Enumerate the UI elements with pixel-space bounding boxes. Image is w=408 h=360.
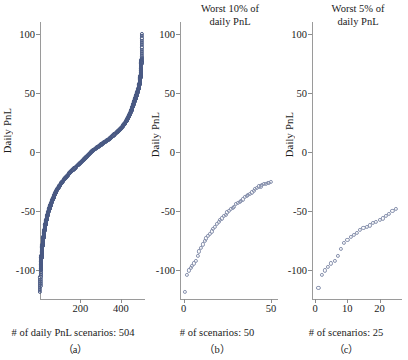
- data-point: [393, 207, 397, 211]
- data-point: [332, 259, 336, 263]
- data-point: [183, 290, 187, 294]
- panel-b-x-tick-label: 50: [266, 303, 277, 314]
- panel-b-y-axis: [180, 22, 181, 300]
- panel-b-x-axis: [180, 299, 278, 300]
- panel-c-y-axis-label: Daily PnL: [284, 112, 295, 157]
- panel-c-y-tick-label: 50: [297, 87, 308, 98]
- panel-b-subcaption: （b）: [150, 341, 284, 356]
- panel-a-y-tick: [36, 34, 40, 35]
- panel-b-y-tick-label: 50: [165, 87, 176, 98]
- panel-b-y-tick-label: -50: [161, 206, 175, 217]
- panel-c-y-axis: [312, 22, 313, 300]
- data-point: [339, 247, 343, 251]
- panel-c-plot-area: 100500-50-10001020: [312, 22, 402, 300]
- panel-a-y-tick-label: 50: [25, 87, 36, 98]
- panel-c-y-tick-label: 0: [302, 147, 307, 158]
- panel-a-x-tick-label: 400: [113, 303, 129, 314]
- data-point: [326, 265, 330, 269]
- panel-c-x-axis: [312, 299, 402, 300]
- data-point: [320, 273, 324, 277]
- data-point: [316, 286, 320, 290]
- panel-c-y-tick: [308, 211, 312, 212]
- panel-b-y-tick-label: 100: [159, 28, 175, 39]
- panel-c-x-tick-label: 0: [313, 303, 318, 314]
- panel-b-y-tick-label: -100: [156, 265, 175, 276]
- data-point: [342, 241, 346, 245]
- panel-b-x-caption: # of scenarios: 50: [150, 327, 284, 338]
- panel-c-y-tick-label: -100: [288, 265, 307, 276]
- data-point: [185, 273, 189, 277]
- panel-a-y-tick: [36, 152, 40, 153]
- panel-a-x-caption: # of daily PnL scenarios: 504: [0, 327, 150, 338]
- panel-c-y-tick-label: -50: [293, 206, 307, 217]
- panel-c-x-caption: # of scenarios: 25: [284, 327, 408, 338]
- panel-a-y-tick-label: 100: [19, 28, 35, 39]
- panel-a-subcaption: （a）: [0, 341, 150, 356]
- panel-c-y-tick-label: 100: [291, 28, 307, 39]
- panel-a-plot-area: 100500-50-100200400: [40, 22, 145, 300]
- panel-a-y-tick-label: -50: [21, 206, 35, 217]
- panel-c-x-tick-label: 20: [374, 303, 385, 314]
- panel-b-y-tick: [176, 93, 180, 94]
- panel-c: Worst 5% of daily PnL Daily PnL 100500-5…: [284, 0, 408, 360]
- panel-c-y-tick: [308, 93, 312, 94]
- data-point: [336, 254, 340, 258]
- data-point: [195, 254, 199, 258]
- panel-b-plot-area: 100500-50-100050: [180, 22, 278, 300]
- panel-c-y-tick: [308, 152, 312, 153]
- data-point: [269, 180, 273, 184]
- panel-b-y-tick: [176, 152, 180, 153]
- panel-b-x-tick-label: 0: [181, 303, 186, 314]
- panel-c-subcaption: （c）: [284, 341, 408, 356]
- panel-a-y-tick: [36, 93, 40, 94]
- data-point: [194, 259, 198, 263]
- panel-c-y-tick: [308, 34, 312, 35]
- data-point: [201, 242, 205, 246]
- figure-daily-pnl-scenarios: Daily PnL 100500-50-100200400 # of daily…: [0, 0, 408, 360]
- panel-a-x-axis: [40, 299, 145, 300]
- panel-a-x-tick-label: 200: [73, 303, 89, 314]
- panel-a-y-axis-label: Daily PnL: [2, 108, 13, 153]
- panel-a-y-tick-label: 0: [30, 147, 35, 158]
- panel-a-y-tick-label: -100: [16, 265, 35, 276]
- data-point: [323, 268, 327, 272]
- panel-a: Daily PnL 100500-50-100200400 # of daily…: [0, 0, 150, 360]
- panel-b-y-tick: [176, 34, 180, 35]
- panel-b-y-axis-label: Daily PnL: [150, 112, 161, 157]
- panel-c-y-tick: [308, 270, 312, 271]
- data-point: [197, 249, 201, 253]
- panel-a-y-tick: [36, 211, 40, 212]
- data-point: [199, 246, 203, 250]
- panel-b-y-tick: [176, 211, 180, 212]
- panel-b: Worst 10% of daily PnL Daily PnL 100500-…: [150, 0, 284, 360]
- panel-c-x-tick-label: 10: [342, 303, 353, 314]
- panel-b-y-tick-label: 0: [170, 147, 175, 158]
- panel-b-y-tick: [176, 270, 180, 271]
